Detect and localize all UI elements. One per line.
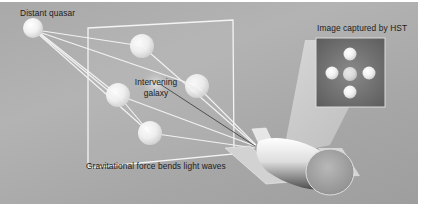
- label-galaxy: galaxy: [130, 87, 183, 98]
- lensing-diagram: Distant quasar Intervening galaxy Gravit…: [0, 2, 418, 204]
- lensed-image-left: [106, 83, 130, 107]
- quasar-sphere: [23, 18, 43, 38]
- lensed-image-right: [185, 74, 209, 98]
- label-distant-quasar: Distant quasar: [20, 7, 75, 18]
- inset-dot-bottom: [344, 86, 357, 99]
- inset-dot-left: [326, 67, 339, 80]
- hst-image-inset: [316, 38, 385, 107]
- inset-dot-right: [363, 67, 376, 80]
- lensed-image-bottom: [138, 121, 162, 145]
- label-gravitational-force: Gravitational force bends light waves: [86, 160, 226, 171]
- lensed-image-top: [130, 34, 154, 58]
- inset-dot-top: [344, 48, 357, 61]
- inset-dot-center: [343, 67, 357, 81]
- label-hst-image: Image captured by HST: [317, 22, 407, 33]
- label-intervening: Intervening: [130, 76, 183, 87]
